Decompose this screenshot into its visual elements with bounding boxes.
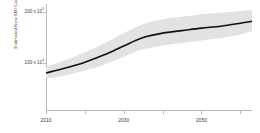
y-tick-label-100k: 100 x 103 — [25, 60, 44, 66]
x-tick-label-2030: 2030 — [118, 117, 129, 123]
y-tick-exponent-200k: 3 — [42, 7, 44, 11]
chart-container: Estimated New SMI Cases/year 200 x 103 1… — [0, 0, 260, 133]
x-tick-label-2050: 2050 — [196, 117, 207, 123]
x-tick-mark-2060 — [240, 111, 241, 114]
x-tick-label-2010: 2010 — [40, 117, 51, 123]
x-tick-mark-2010 — [46, 111, 47, 114]
y-axis-tick-labels: 200 x 103 100 x 103 — [0, 0, 44, 133]
x-tick-mark-2030 — [124, 111, 125, 114]
x-tick-mark-2050 — [201, 111, 202, 114]
x-tick-mark-2040 — [163, 111, 164, 114]
x-axis-line — [46, 110, 252, 111]
y-tick-label-200k: 200 x 103 — [25, 9, 44, 15]
x-tick-mark-2020 — [85, 111, 86, 114]
plot-area — [46, 4, 252, 110]
y-tick-exponent-100k: 3 — [42, 58, 44, 62]
uncertainty-band — [46, 10, 252, 79]
chart-plot-svg — [46, 4, 252, 110]
